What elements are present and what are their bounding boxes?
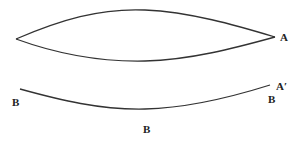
label-b-left: B bbox=[12, 96, 20, 108]
diagram-canvas: A A′ B B B bbox=[0, 0, 296, 145]
label-b-bottom: B bbox=[143, 123, 151, 135]
lower-curve bbox=[20, 85, 270, 109]
label-a-prime: A′ bbox=[276, 80, 287, 92]
lens-top-curve bbox=[16, 10, 275, 39]
label-a: A bbox=[280, 31, 288, 43]
label-b-right: B bbox=[268, 93, 276, 105]
lens-bottom-curve bbox=[16, 37, 275, 61]
